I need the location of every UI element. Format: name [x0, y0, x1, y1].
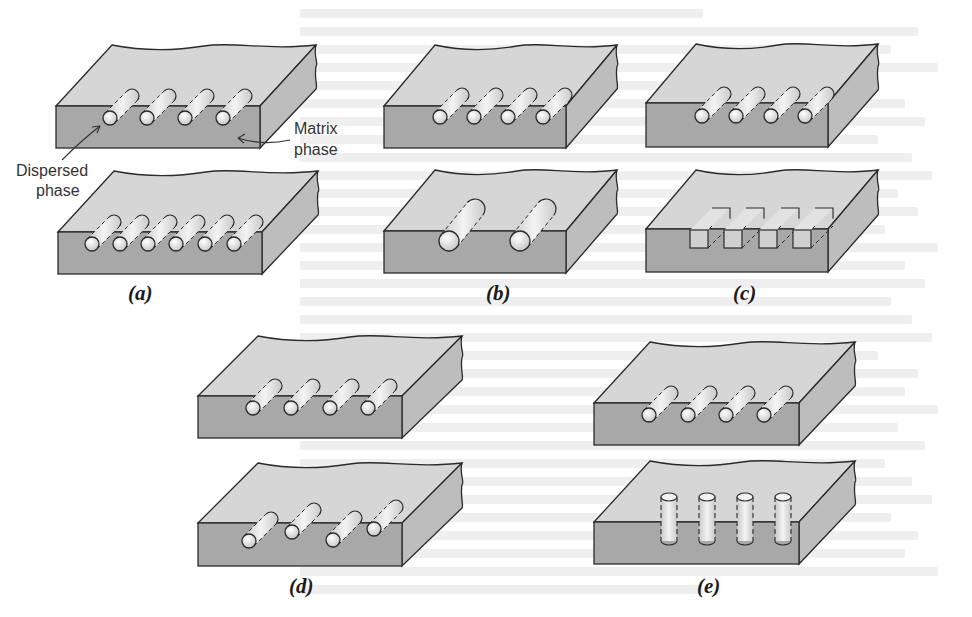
- dispersed-fiber: [642, 408, 656, 422]
- dispersed-fiber-square: [690, 230, 708, 248]
- dispersed-fiber: [227, 237, 241, 251]
- dispersed-fiber: [719, 408, 733, 422]
- block-d-top: [198, 336, 463, 438]
- dispersed-fiber: [798, 109, 812, 123]
- block-b-bottom: [384, 170, 618, 273]
- block-c-bottom: [646, 170, 879, 272]
- dispersed-fiber-vertical: [661, 493, 677, 501]
- panel-label-b: (b): [486, 281, 511, 305]
- dispersed-fiber-square: [793, 230, 811, 248]
- dispersed-fiber: [198, 237, 212, 251]
- composite-schematic-figure: (a) (b) (c) (d) (e) Dispersed phase Matr…: [0, 0, 972, 617]
- block-e-bottom: [594, 461, 856, 564]
- block-c-top: [646, 44, 879, 147]
- dispersed-fiber: [113, 237, 127, 251]
- block-a-bottom: [58, 171, 319, 274]
- dispersed-fiber: [536, 110, 550, 124]
- panel-label-a: (a): [128, 281, 153, 305]
- dispersed-fiber: [764, 109, 778, 123]
- dispersed-fiber: [246, 401, 260, 415]
- dispersed-fiber: [178, 111, 192, 125]
- dispersed-fiber: [695, 109, 709, 123]
- dispersed-fiber: [140, 111, 154, 125]
- dispersed-fiber: [323, 401, 337, 415]
- dispersed-fiber: [216, 111, 230, 125]
- dispersed-phase-label-line1: Dispersed: [16, 162, 88, 179]
- dispersed-phase-label-line2: phase: [36, 182, 80, 199]
- dispersed-fiber: [439, 231, 459, 251]
- dispersed-fiber: [285, 525, 299, 539]
- block-e-top: [594, 342, 856, 445]
- dispersed-fiber: [103, 111, 117, 125]
- dispersed-fiber: [326, 533, 340, 547]
- panel-label-e: (e): [697, 574, 720, 598]
- dispersed-fiber: [467, 110, 481, 124]
- dispersed-fiber: [361, 401, 375, 415]
- dispersed-fiber: [681, 408, 695, 422]
- dispersed-fiber: [501, 110, 515, 124]
- block-d-bottom: [198, 463, 463, 566]
- block-b-top: [384, 45, 618, 148]
- matrix-phase-label-line1: Matrix: [294, 120, 338, 137]
- block-a-top: [56, 45, 317, 148]
- dispersed-fiber: [85, 237, 99, 251]
- panel-label-d: (d): [289, 574, 314, 598]
- dispersed-fiber: [284, 401, 298, 415]
- dispersed-fiber: [433, 110, 447, 124]
- dispersed-fiber: [367, 522, 381, 536]
- dispersed-fiber-vertical: [775, 493, 791, 501]
- dispersed-fiber: [510, 231, 530, 251]
- dispersed-fiber-vertical: [699, 493, 715, 501]
- panel-label-c: (c): [733, 281, 756, 305]
- dispersed-fiber-vertical: [737, 493, 753, 501]
- dispersed-fiber: [141, 237, 155, 251]
- dispersed-fiber-square: [724, 230, 742, 248]
- dispersed-fiber: [242, 534, 256, 548]
- dispersed-fiber: [169, 237, 183, 251]
- dispersed-fiber: [729, 109, 743, 123]
- dispersed-fiber: [757, 408, 771, 422]
- dispersed-fiber-square: [759, 230, 777, 248]
- matrix-phase-label-line2: phase: [294, 141, 338, 158]
